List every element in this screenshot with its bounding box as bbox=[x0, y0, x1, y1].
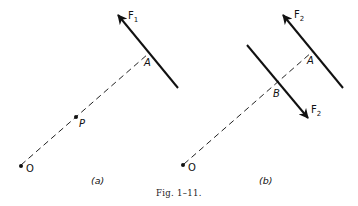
panel-b: F2 F2 A B O (b) bbox=[181, 9, 343, 186]
force-f2-upper-label: F2 bbox=[294, 9, 304, 23]
point-a-label: A bbox=[143, 57, 151, 68]
force-f1-label: F1 bbox=[128, 10, 138, 24]
figure-caption: Fig. 1–11. bbox=[156, 188, 202, 198]
panel-b-label: (b) bbox=[259, 175, 272, 186]
force-f2-upper-line bbox=[283, 15, 343, 88]
panel-a: F1 A P O (a) bbox=[19, 10, 178, 186]
point-p-label: P bbox=[79, 118, 86, 129]
point-a-b-label: A bbox=[306, 55, 314, 66]
dashed-line-o-to-a-b bbox=[184, 52, 312, 164]
point-b-label: B bbox=[273, 88, 280, 99]
point-o-b-label: O bbox=[188, 162, 196, 173]
force-f2-lower-line bbox=[247, 45, 308, 118]
force-f2-lower-label: F2 bbox=[311, 104, 321, 118]
figure-canvas: F1 A P O (a) F2 F2 A B O (b) Fig. 1–11. bbox=[0, 0, 358, 206]
force-f1-line-of-action bbox=[118, 15, 178, 88]
panel-a-label: (a) bbox=[91, 175, 104, 186]
dashed-line-o-to-a bbox=[21, 54, 148, 165]
point-o-label: O bbox=[26, 163, 34, 174]
point-o-b bbox=[181, 163, 185, 167]
point-p bbox=[74, 115, 78, 119]
point-o bbox=[19, 164, 23, 168]
